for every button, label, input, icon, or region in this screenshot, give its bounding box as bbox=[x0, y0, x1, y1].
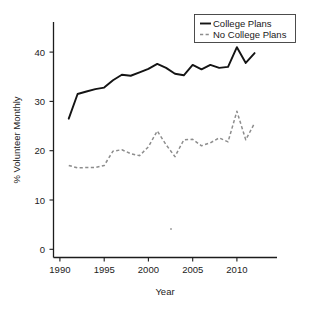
legend-label-no-college-plans: No College Plans bbox=[213, 29, 287, 40]
chart-legend: College Plans No College Plans bbox=[195, 15, 296, 43]
x-tick-label-1995: 1995 bbox=[94, 264, 115, 275]
x-axis-tick-labels: 1990 1995 2000 2005 2010 bbox=[49, 264, 247, 275]
y-tick-label-0: 0 bbox=[40, 244, 45, 255]
line-chart-canvas: 40 30 20 10 0 1990 1995 2000 2005 2010 Y… bbox=[0, 0, 312, 309]
y-tick-label-40: 40 bbox=[34, 47, 45, 58]
chart-figure: 40 30 20 10 0 1990 1995 2000 2005 2010 Y… bbox=[0, 0, 312, 309]
series-line-college-plans bbox=[69, 47, 255, 118]
x-tick-label-2000: 2000 bbox=[138, 264, 159, 275]
y-axis-tick-labels: 40 30 20 10 0 bbox=[34, 47, 45, 255]
series-line-no-college-plans bbox=[69, 111, 255, 168]
x-tick-label-2010: 2010 bbox=[226, 264, 247, 275]
y-axis-title: % Volunteer Monthly bbox=[11, 96, 22, 183]
stray-artifact-mark bbox=[170, 228, 172, 230]
x-tick-label-1990: 1990 bbox=[49, 264, 70, 275]
y-tick-label-20: 20 bbox=[34, 145, 45, 156]
y-tick-label-10: 10 bbox=[34, 195, 45, 206]
legend-label-college-plans: College Plans bbox=[213, 18, 272, 29]
x-tick-label-2005: 2005 bbox=[182, 264, 203, 275]
y-tick-label-30: 30 bbox=[34, 96, 45, 107]
x-axis-title: Year bbox=[155, 286, 174, 297]
